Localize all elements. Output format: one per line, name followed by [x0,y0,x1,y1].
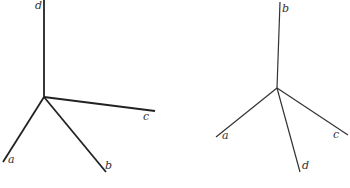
right-axis-b [277,2,280,88]
left-axis-c [44,97,155,111]
left-label-c: c [143,110,149,123]
left-axes: d c a b [3,0,155,172]
left-label-a: a [8,153,15,166]
left-label-d: d [35,0,42,12]
right-label-c: c [333,128,339,141]
left-axis-b [44,97,106,172]
right-label-d: d [302,159,309,172]
right-axes: b a c d [216,2,348,172]
axes-diagram: d c a b b a c d [0,0,350,188]
right-label-b: b [282,2,289,15]
left-label-b: b [105,159,112,172]
right-label-a: a [222,129,229,142]
